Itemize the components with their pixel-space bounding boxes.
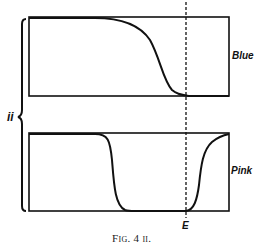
pink-curve: [29, 134, 229, 211]
blue-curve: [29, 18, 229, 96]
group-label: ii: [7, 110, 14, 124]
blue-panel-frame: [29, 17, 229, 96]
pink-panel-frame: [29, 133, 229, 211]
figure-drawing: [0, 0, 260, 247]
panel-label-pink: Pink: [231, 165, 252, 176]
brace-icon: [18, 19, 26, 211]
marker-label-e: E: [182, 220, 189, 231]
figure-caption: Fig. 4 ii.: [112, 232, 151, 244]
panel-label-blue: Blue: [232, 50, 254, 61]
